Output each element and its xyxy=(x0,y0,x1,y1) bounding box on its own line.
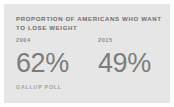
page-title: Proportion of Americans who want to lose… xyxy=(16,14,162,33)
stat-year-label: 2004 xyxy=(16,37,69,46)
source-credit: Gallup Poll xyxy=(16,84,62,90)
stat-year-label: 2015 xyxy=(98,37,151,46)
stat-value: 62% xyxy=(16,49,69,78)
stat-column-2015: 2015 49% xyxy=(98,37,151,78)
stat-column-2004: 2004 62% xyxy=(16,37,69,78)
stat-value: 49% xyxy=(98,49,151,78)
infographic-card: Proportion of Americans who want to lose… xyxy=(4,4,170,103)
